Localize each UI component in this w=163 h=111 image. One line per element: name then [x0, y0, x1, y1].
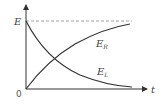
diagram-canvas: E 0 t ER EL [0, 0, 163, 111]
curve-e-l [26, 21, 132, 87]
curve-e-l-label: EL [96, 66, 108, 78]
curve-e-r-label: ER [95, 38, 108, 50]
origin-label: 0 [16, 89, 22, 99]
x-axis-label: t [151, 84, 156, 95]
curve-e-r-label-sub: R [102, 43, 108, 50]
y-marker-label: E [13, 16, 22, 27]
curve-e-r [26, 24, 130, 89]
curve-e-l-label-sub: L [103, 71, 108, 78]
